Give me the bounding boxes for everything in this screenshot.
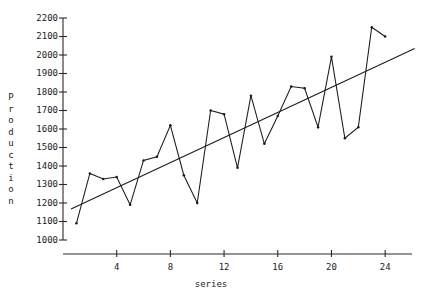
data-series-markers xyxy=(75,26,386,225)
data-point-3 xyxy=(102,178,105,181)
data-point-13 xyxy=(236,167,239,170)
data-point-6 xyxy=(142,159,145,162)
data-point-23 xyxy=(370,26,373,29)
data-point-16 xyxy=(277,115,280,118)
data-point-2 xyxy=(89,172,92,175)
axis-lines xyxy=(63,18,412,254)
data-point-8 xyxy=(169,124,172,127)
data-point-21 xyxy=(344,137,347,140)
data-point-4 xyxy=(115,176,118,179)
data-point-18 xyxy=(303,87,306,90)
data-point-22 xyxy=(357,126,360,128)
trend-line xyxy=(71,49,415,209)
data-point-14 xyxy=(250,94,253,97)
data-point-10 xyxy=(196,202,199,205)
data-point-5 xyxy=(129,204,132,207)
data-point-12 xyxy=(223,113,226,116)
data-point-15 xyxy=(263,143,266,146)
data-series-line xyxy=(76,27,385,223)
data-point-20 xyxy=(330,56,333,59)
chart-plot xyxy=(0,0,422,302)
data-point-17 xyxy=(290,85,293,88)
data-point-9 xyxy=(183,174,186,177)
data-point-11 xyxy=(209,109,212,112)
chart-container: Production 10001100120013001400150016001… xyxy=(0,0,422,302)
data-point-19 xyxy=(317,126,320,128)
data-point-7 xyxy=(156,156,159,159)
data-point-1 xyxy=(75,222,78,225)
data-point-24 xyxy=(384,35,387,38)
